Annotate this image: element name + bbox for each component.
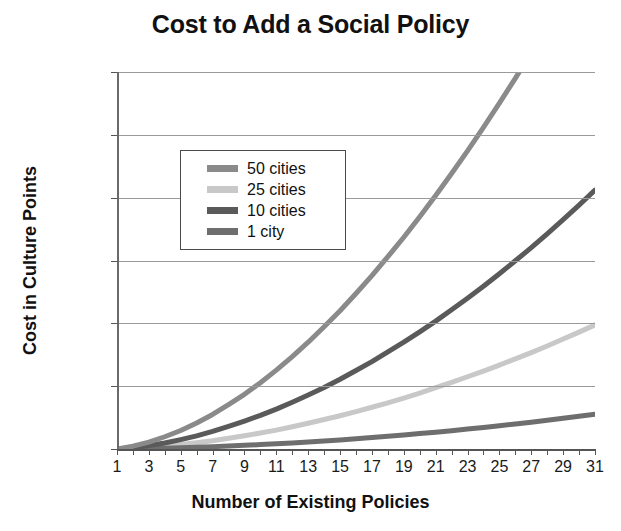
x-tick-mark — [372, 449, 373, 455]
x-tick-mark — [229, 449, 230, 455]
legend-swatch — [207, 207, 238, 214]
x-tick-mark — [276, 449, 277, 455]
x-tick-mark — [547, 449, 548, 455]
x-tick-mark — [244, 449, 245, 455]
chart-page: Cost to Add a Social Policy Cost in Cult… — [0, 0, 621, 531]
x-tick-mark — [149, 449, 150, 455]
x-tick-mark — [515, 449, 516, 455]
x-tick-mark — [595, 449, 596, 455]
legend-item: 50 cities — [181, 158, 345, 179]
x-tick-mark — [308, 449, 309, 455]
x-tick-mark — [452, 449, 453, 455]
legend-item: 10 cities — [181, 200, 345, 221]
x-tick-mark — [531, 449, 532, 455]
y-tick-mark — [111, 386, 117, 387]
plot-area: 020,00040,00060,00080,000100,000120,000 … — [117, 72, 595, 449]
legend-item: 1 city — [181, 221, 345, 242]
x-tick-mark — [563, 449, 564, 455]
x-tick-mark — [436, 449, 437, 455]
x-tick-mark — [324, 449, 325, 455]
x-tick-mark — [388, 449, 389, 455]
y-tick-mark — [111, 72, 117, 73]
x-tick-mark — [292, 449, 293, 455]
gridline — [117, 386, 595, 387]
x-axis-label: Number of Existing Policies — [0, 492, 621, 513]
gridline — [117, 261, 595, 262]
legend-swatch — [207, 165, 238, 172]
y-tick-mark — [111, 261, 117, 262]
x-tick-mark — [260, 449, 261, 455]
legend-label: 50 cities — [247, 161, 306, 177]
x-tick-mark — [117, 449, 118, 455]
y-axis-line — [117, 72, 119, 449]
chart-title: Cost to Add a Social Policy — [0, 10, 621, 39]
gridline — [117, 72, 595, 73]
legend-item: 25 cities — [181, 179, 345, 200]
x-tick-mark — [133, 449, 134, 455]
x-tick-mark — [579, 449, 580, 455]
legend-label: 10 cities — [247, 203, 306, 219]
x-tick-label: 31 — [575, 458, 615, 476]
gridline — [117, 135, 595, 136]
x-tick-mark — [483, 449, 484, 455]
x-tick-mark — [499, 449, 500, 455]
x-tick-mark — [404, 449, 405, 455]
legend-label: 25 cities — [247, 182, 306, 198]
x-tick-mark — [197, 449, 198, 455]
x-tick-mark — [468, 449, 469, 455]
legend-swatch — [207, 228, 238, 235]
x-tick-mark — [165, 449, 166, 455]
y-tick-mark — [111, 198, 117, 199]
y-tick-mark — [111, 135, 117, 136]
x-tick-mark — [356, 449, 357, 455]
y-axis-label: Cost in Culture Points — [20, 116, 41, 406]
legend: 50 cities25 cities10 cities1 city — [180, 150, 346, 250]
legend-swatch — [207, 186, 238, 193]
x-tick-mark — [420, 449, 421, 455]
gridline — [117, 323, 595, 324]
legend-label: 1 city — [247, 224, 284, 240]
y-tick-mark — [111, 323, 117, 324]
x-tick-mark — [213, 449, 214, 455]
x-tick-mark — [181, 449, 182, 455]
x-tick-mark — [340, 449, 341, 455]
